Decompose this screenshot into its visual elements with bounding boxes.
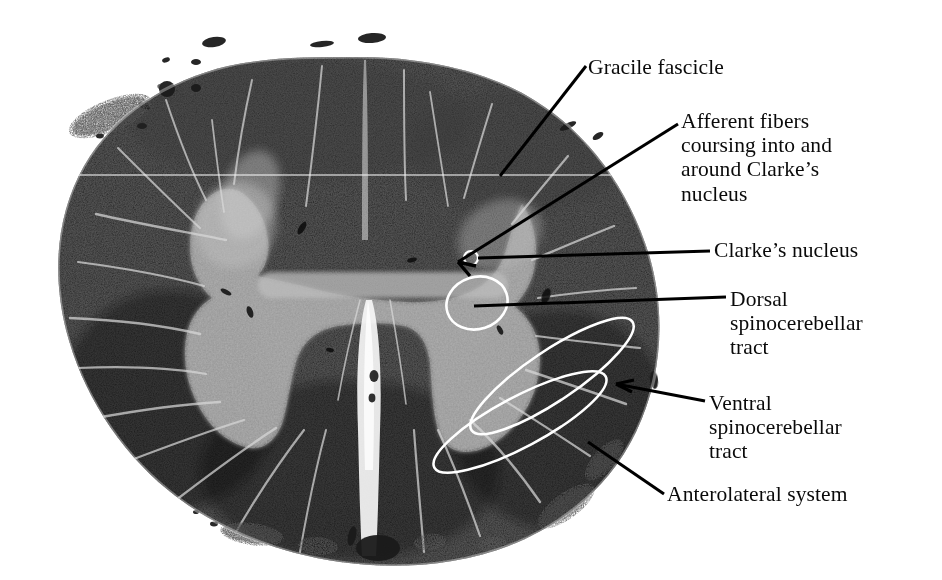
label-ventral-spinocerebellar-tract: Ventral spinocerebellar tract — [709, 391, 842, 464]
label-clarkes-nucleus: Clarke’s nucleus — [714, 238, 858, 262]
label-ventral-line-1: Ventral — [709, 391, 842, 415]
label-afferent-fibers-line-4: nucleus — [681, 182, 832, 206]
label-afferent-fibers-line-1: Afferent fibers — [681, 109, 832, 133]
label-anterolateral-system: Anterolateral system — [667, 482, 848, 506]
label-afferent-fibers: Afferent fibers coursing into and around… — [681, 109, 832, 206]
label-dorsal-line-1: Dorsal — [730, 287, 863, 311]
label-dorsal-line-3: tract — [730, 335, 863, 359]
label-ventral-line-2: spinocerebellar — [709, 415, 842, 439]
label-ventral-line-3: tract — [709, 439, 842, 463]
label-afferent-fibers-line-3: around Clarke’s — [681, 157, 832, 181]
label-gracile-fascicle: Gracile fascicle — [588, 55, 724, 79]
figure-canvas: Gracile fascicle Afferent fibers coursin… — [0, 0, 942, 580]
label-dorsal-line-2: spinocerebellar — [730, 311, 863, 335]
label-dorsal-spinocerebellar-tract: Dorsal spinocerebellar tract — [730, 287, 863, 360]
label-afferent-fibers-line-2: coursing into and — [681, 133, 832, 157]
